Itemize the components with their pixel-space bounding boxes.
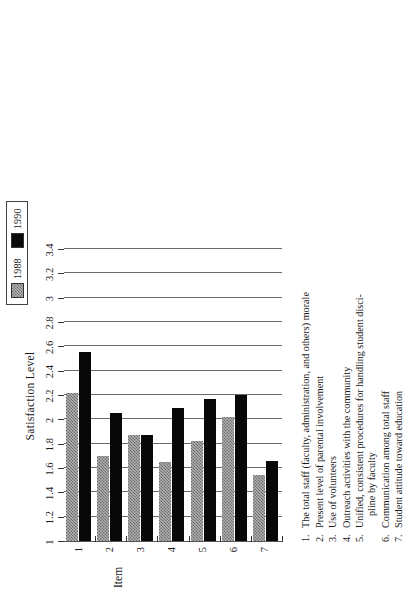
bar-1990-item-7 [266, 461, 278, 541]
bar-1988-item-6 [222, 417, 234, 541]
legend-label-1988: 1988 [13, 258, 23, 279]
category-axis-tick-label: 2 [104, 547, 115, 561]
item-legend-row: 4.Outreach activities with the community [341, 22, 353, 542]
item-legend-row: 2.Present level of parental involvement [314, 22, 326, 542]
value-axis-tick-label: 1.2 [44, 511, 55, 524]
gridline [64, 321, 282, 322]
gridline [64, 248, 282, 249]
bar-1988-item-5 [191, 441, 203, 541]
legend-swatch-1988-icon [11, 283, 24, 298]
category-axis-tick [282, 536, 283, 542]
category-axis-tick [220, 536, 221, 542]
bar-1990-item-3 [141, 435, 153, 541]
item-number: 5. [354, 528, 378, 542]
category-axis-tick-label: 7 [259, 547, 270, 561]
bar-1988-item-1 [66, 393, 78, 541]
category-axis-tick-label: 3 [135, 547, 146, 561]
item-legend-row: 3.Use of volunteers [327, 22, 339, 542]
bar-1988-item-3 [128, 435, 140, 541]
item-text: Communication among total staff [380, 22, 392, 528]
bar-1990-item-4 [172, 408, 184, 541]
category-axis-tick [126, 536, 127, 542]
bar-1990-item-5 [204, 399, 216, 541]
gridline [64, 394, 282, 395]
gridline [64, 297, 282, 298]
plot-area: 1234567 [64, 249, 282, 542]
category-axis-tick [251, 536, 252, 542]
value-axis-tick-label: 3.4 [44, 243, 55, 256]
value-axis: 11.21.41.61.822.22.42.62.833.23.4 [50, 250, 64, 542]
item-number: 1. [300, 528, 312, 542]
bar-1988-item-7 [253, 475, 265, 541]
item-number: 3. [327, 528, 339, 542]
value-axis-tick-label: 2.4 [44, 365, 55, 378]
item-number: 6. [380, 528, 392, 542]
item-legend-list: 1.The total staff (faculty, administrati… [300, 22, 407, 542]
value-axis-tick-label: 1.8 [44, 438, 55, 451]
category-axis-title: Item [112, 567, 124, 588]
category-axis-tick [95, 536, 96, 542]
item-legend-row: 5.Unified, consistent procedures for han… [354, 22, 378, 542]
item-number: 2. [314, 528, 326, 542]
item-text: Outreach activities with the community [341, 22, 353, 528]
category-axis-tick-label: 5 [197, 547, 208, 561]
value-axis-title: Satisfaction Level [24, 250, 36, 542]
category-axis-tick [189, 536, 190, 542]
item-text: Student attitude toward education [393, 22, 405, 528]
item-text-continuation: pline by faculty [366, 22, 378, 528]
bar-1990-item-6 [235, 395, 247, 541]
gridline [64, 370, 282, 371]
gridline [64, 272, 282, 273]
value-axis-tick-label: 1.6 [44, 462, 55, 475]
bar-1990-item-2 [110, 413, 122, 541]
item-number: 7. [393, 528, 405, 542]
legend-label-1990: 1990 [13, 208, 23, 229]
category-axis-tick-label: 6 [228, 547, 239, 561]
bar-1990-item-1 [79, 352, 91, 541]
value-axis-tick-label: 2 [44, 418, 55, 423]
item-legend-row: 7.Student attitude toward education [393, 22, 405, 542]
category-axis-tick [157, 536, 158, 542]
item-legend-row: 1.The total staff (faculty, administrati… [300, 22, 312, 542]
item-legend-row: 6.Communication among total staff [380, 22, 392, 542]
item-text: Unified, consistent procedures for handl… [354, 22, 378, 528]
item-text: Present level of parental involvement [314, 22, 326, 528]
item-number: 4. [341, 528, 353, 542]
value-axis-tick-label: 1 [44, 539, 55, 544]
value-axis-tick-label: 3 [44, 296, 55, 301]
legend-swatch-1990-icon [11, 233, 24, 248]
category-axis-tick-label: 4 [166, 547, 177, 561]
item-text: The total staff (faculty, administration… [300, 22, 312, 528]
value-axis-tick-label: 3.2 [44, 268, 55, 281]
gridline [64, 345, 282, 346]
value-axis-tick-label: 1.4 [44, 487, 55, 500]
legend-entry-1990: 1990 [11, 208, 24, 248]
category-axis-tick-label: 1 [73, 547, 84, 561]
value-axis-tick-label: 2.2 [44, 389, 55, 402]
legend-entry-1988: 1988 [11, 258, 24, 298]
bar-1988-item-4 [159, 462, 171, 541]
item-text: Use of volunteers [327, 22, 339, 528]
value-axis-tick-label: 2.8 [44, 316, 55, 329]
bar-1988-item-2 [97, 456, 109, 541]
value-axis-tick-label: 2.6 [44, 341, 55, 354]
